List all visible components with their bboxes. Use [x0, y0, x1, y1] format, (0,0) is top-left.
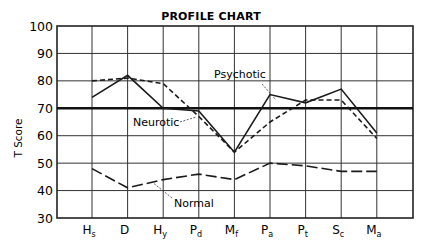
x-tick-label: Ma	[366, 223, 381, 239]
annotation-neurotic: Neurotic	[133, 116, 179, 129]
profile-chart: PROFILE CHART 30405060708090100 T Score …	[0, 0, 435, 248]
grid	[57, 26, 413, 218]
y-axis-label: T Score	[12, 118, 24, 158]
x-tick-label: Pt	[297, 223, 307, 239]
y-tick-label: 100	[29, 19, 53, 34]
annotation-normal: Normal	[174, 197, 214, 210]
chart-title: PROFILE CHART	[161, 10, 261, 23]
x-tick-label: Sc	[332, 223, 344, 239]
y-tick-label: 80	[37, 73, 53, 88]
y-tick-label: 70	[37, 101, 53, 116]
x-tick-label: D	[120, 223, 129, 237]
x-tick-label: Hy	[153, 223, 167, 239]
y-tick-label: 90	[37, 46, 53, 61]
y-tick-label: 30	[37, 211, 53, 226]
annotation-psychotic: Psychotic	[214, 68, 266, 81]
y-tick-label: 60	[37, 128, 53, 143]
y-tick-label: 40	[37, 183, 53, 198]
x-tick-label: Mf	[225, 223, 238, 239]
annotations: PsychoticNeuroticNormal	[133, 68, 276, 210]
x-tick-label: Pd	[190, 223, 202, 239]
x-tick-label: Hs	[82, 223, 95, 239]
y-tick-label: 50	[37, 156, 53, 171]
y-axis-ticks: 30405060708090100	[29, 19, 53, 226]
x-axis-ticks: HsDHyPdMfPaPtScMa	[82, 223, 381, 239]
x-tick-label: Pa	[261, 223, 273, 239]
